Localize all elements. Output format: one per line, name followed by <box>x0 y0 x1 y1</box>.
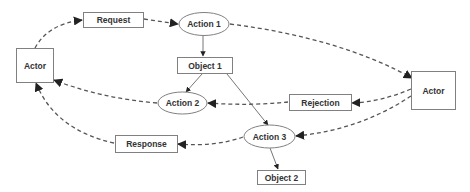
edge-action2-to-actor-left <box>54 80 157 103</box>
edge-object1-to-action2 <box>186 74 202 92</box>
node-action3[interactable]: Action 3 <box>244 125 295 148</box>
node-object1[interactable]: Object 1 <box>178 58 233 74</box>
node-actor-left[interactable]: Actor <box>17 49 54 83</box>
edge-actor-to-request <box>35 20 82 48</box>
node-action1[interactable]: Action 1 <box>179 13 229 36</box>
node-label: Rejection <box>301 98 339 108</box>
edge-object1-to-action3 <box>227 74 268 125</box>
node-request[interactable]: Request <box>84 13 144 28</box>
edge-action1-to-actor-right <box>230 24 412 78</box>
edge-response-to-actor-left <box>36 83 114 143</box>
node-label: Action 2 <box>166 98 200 108</box>
node-rejection[interactable]: Rejection <box>290 95 352 111</box>
node-label: Actor <box>422 86 445 96</box>
node-action2[interactable]: Action 2 <box>158 92 207 114</box>
node-label: Action 3 <box>253 132 287 142</box>
node-label: Response <box>126 139 167 149</box>
edge-rejection-to-action2 <box>208 102 288 104</box>
node-label: Object 2 <box>265 173 299 183</box>
node-actor-right[interactable]: Actor <box>412 72 456 110</box>
flow-diagram: Actor Request Action 1 Object 1 Action 2… <box>0 0 470 192</box>
edge-action3-to-response <box>178 137 243 145</box>
node-label: Actor <box>24 61 47 71</box>
node-response[interactable]: Response <box>116 136 178 153</box>
edge-action3-to-object2 <box>270 148 278 169</box>
node-label: Object 1 <box>188 61 222 71</box>
node-label: Request <box>97 15 131 25</box>
node-object2[interactable]: Object 2 <box>258 171 306 185</box>
edge-request-to-action1 <box>144 19 178 24</box>
node-label: Action 1 <box>187 19 221 29</box>
